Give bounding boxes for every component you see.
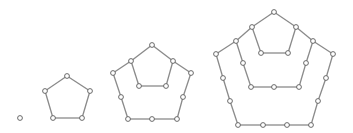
single-node-graph bbox=[18, 116, 23, 121]
graph-edge bbox=[313, 41, 333, 54]
graph-node bbox=[272, 10, 277, 15]
graph-node bbox=[150, 117, 155, 122]
graph-node bbox=[259, 51, 264, 56]
graph-node bbox=[126, 117, 131, 122]
graph-node bbox=[304, 61, 309, 66]
graph-node bbox=[228, 99, 233, 104]
graph-edge bbox=[306, 41, 313, 63]
graph-edge bbox=[113, 73, 121, 97]
graph-node bbox=[51, 116, 56, 121]
graph-edge bbox=[318, 78, 326, 101]
graph-edge bbox=[67, 76, 90, 91]
graph-edge bbox=[299, 63, 306, 87]
graph-edge bbox=[243, 63, 251, 87]
graph-edge bbox=[82, 91, 90, 118]
graph-node bbox=[297, 85, 302, 90]
graph-node bbox=[261, 123, 266, 128]
graph-node bbox=[294, 25, 299, 30]
graph-edge bbox=[183, 73, 191, 97]
graph-node bbox=[249, 85, 254, 90]
graph-node bbox=[181, 95, 186, 100]
graph-node bbox=[241, 61, 246, 66]
graph-edge bbox=[311, 101, 318, 125]
graph-node bbox=[236, 123, 241, 128]
graph-node bbox=[119, 95, 124, 100]
graph-edge bbox=[45, 76, 67, 91]
graph-node bbox=[171, 59, 176, 64]
graph-edge bbox=[166, 61, 173, 86]
graph-edge bbox=[131, 45, 152, 61]
graph-node bbox=[234, 39, 239, 44]
graph-edge bbox=[113, 61, 131, 73]
graph-node bbox=[324, 76, 329, 81]
graph-edge bbox=[274, 12, 296, 27]
graph-node bbox=[18, 116, 23, 121]
graph-edge bbox=[326, 54, 333, 78]
graph-edge bbox=[236, 41, 243, 63]
graph-node bbox=[311, 39, 316, 44]
graph-node bbox=[316, 99, 321, 104]
graph-edge bbox=[252, 27, 261, 53]
graph-edge bbox=[216, 54, 223, 78]
graph-node bbox=[272, 85, 277, 90]
graph-node bbox=[309, 123, 314, 128]
small-pentagon-graph bbox=[43, 74, 93, 121]
graph-edge bbox=[230, 101, 238, 125]
graph-node bbox=[286, 51, 291, 56]
graph-edge bbox=[236, 27, 252, 41]
double-pentagon-graph bbox=[111, 43, 194, 122]
graph-node bbox=[43, 89, 48, 94]
graph-node bbox=[65, 74, 70, 79]
graph-edge bbox=[252, 12, 274, 27]
graph-node bbox=[175, 117, 180, 122]
graph-node bbox=[250, 25, 255, 30]
graph-edge bbox=[131, 61, 139, 86]
graph-node bbox=[111, 71, 116, 76]
graph-node bbox=[164, 84, 169, 89]
graph-node bbox=[214, 52, 219, 57]
graph-edge bbox=[288, 27, 296, 53]
graph-edge bbox=[216, 41, 236, 54]
graph-node bbox=[88, 89, 93, 94]
graph-node bbox=[221, 76, 226, 81]
triple-pentagon-graph bbox=[214, 10, 336, 128]
graph-edge bbox=[223, 78, 230, 101]
graph-edge bbox=[152, 45, 173, 61]
graph-edge bbox=[45, 91, 53, 118]
graph-node bbox=[285, 123, 290, 128]
graph-node bbox=[80, 116, 85, 121]
graph-node bbox=[137, 84, 142, 89]
graph-edge bbox=[296, 27, 313, 41]
graph-node bbox=[331, 52, 336, 57]
graph-edge bbox=[177, 97, 183, 119]
graph-node bbox=[189, 71, 194, 76]
graph-node bbox=[150, 43, 155, 48]
graph-edge bbox=[121, 97, 128, 119]
graph-edge bbox=[173, 61, 191, 73]
graph-node bbox=[129, 59, 134, 64]
graph-diagram bbox=[0, 0, 353, 133]
